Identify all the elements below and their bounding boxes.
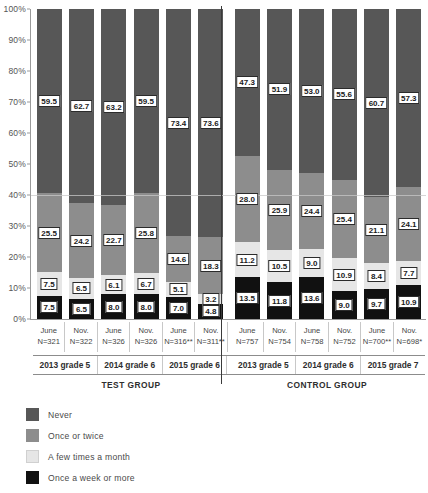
bar-segment-a-few-times-a-month[interactable]: 7.5 — [37, 272, 62, 295]
stacked-bar[interactable]: 60.721.18.49.7 — [364, 9, 389, 319]
bar-segment-once-or-twice[interactable]: 24.1 — [396, 187, 421, 262]
bar-segment-never[interactable]: 47.3 — [235, 9, 260, 156]
legend-item[interactable]: Never — [26, 404, 326, 425]
bar-segment-once-a-week-or-more[interactable]: 10.9 — [396, 285, 421, 319]
y-tick-label-80: 80% — [8, 66, 26, 76]
bar-segment-never[interactable]: 57.3 — [396, 9, 421, 187]
bar-column: 73.414.65.17.0 — [162, 9, 194, 319]
bar-segment-once-or-twice[interactable]: 18.3 — [198, 237, 223, 294]
bar-segment-once-a-week-or-more[interactable]: 7.0 — [166, 297, 191, 319]
legend-swatch-icon — [26, 408, 39, 421]
x-label-sample-size: N=752 — [329, 336, 360, 347]
stacked-bar[interactable]: 73.414.65.17.0 — [166, 9, 191, 319]
bar-segment-once-a-week-or-more[interactable]: 6.5 — [69, 299, 94, 319]
bar-segment-once-a-week-or-more[interactable]: 9.0 — [332, 291, 357, 319]
bar-segment-never[interactable]: 51.9 — [267, 9, 292, 170]
bar-segment-never[interactable]: 59.5 — [134, 9, 159, 193]
bar-segment-never[interactable]: 73.4 — [166, 9, 191, 236]
bar-segment-once-a-week-or-more[interactable]: 8.0 — [134, 294, 159, 319]
bar-segment-once-a-week-or-more[interactable]: 7.5 — [37, 296, 62, 319]
bar-segment-once-or-twice[interactable]: 24.2 — [69, 203, 94, 278]
legend-swatch-icon — [26, 471, 39, 484]
x-label-sample-size: N=326 — [98, 336, 129, 347]
x-label-month: Nov. — [130, 325, 161, 336]
bar-segment-a-few-times-a-month[interactable]: 6.5 — [69, 278, 94, 298]
x-axis-label: JuneN=321 — [33, 322, 65, 352]
bar-segment-a-few-times-a-month[interactable]: 11.2 — [235, 242, 260, 277]
bar-segment-never[interactable]: 55.6 — [332, 9, 357, 180]
stacked-bar[interactable]: 63.222.76.18.0 — [101, 9, 126, 319]
bar-segment-once-or-twice[interactable]: 22.7 — [101, 205, 126, 275]
legend-item[interactable]: Once or twice — [26, 425, 326, 446]
legend-label: A few times a month — [48, 452, 130, 462]
segment-value-label: 8.4 — [368, 270, 385, 282]
bar-segment-a-few-times-a-month[interactable]: 10.9 — [332, 258, 357, 291]
bar-segment-once-a-week-or-more[interactable]: 9.7 — [364, 289, 389, 319]
segment-value-label: 10.5 — [269, 260, 291, 272]
bar-segment-never[interactable]: 62.7 — [69, 9, 94, 203]
legend-item[interactable]: A few times a month — [26, 446, 326, 467]
segment-value-label: 21.1 — [366, 224, 388, 236]
segment-value-label: 53.0 — [301, 85, 323, 97]
bar-segment-never[interactable]: 59.5 — [37, 9, 62, 193]
stacked-bar[interactable]: 53.024.49.013.6 — [299, 9, 324, 319]
bar-segment-once-a-week-or-more[interactable]: 8.0 — [101, 294, 126, 319]
bar-segment-once-or-twice[interactable]: 25.8 — [134, 193, 159, 273]
segment-value-label: 4.8 — [202, 305, 219, 317]
y-axis-line — [30, 9, 31, 320]
segment-value-label: 7.0 — [170, 302, 187, 314]
stacked-bar[interactable]: 55.625.410.99.0 — [332, 9, 357, 319]
segment-value-label: 13.5 — [236, 292, 258, 304]
bar-segment-once-or-twice[interactable]: 21.1 — [364, 197, 389, 262]
stacked-bar[interactable]: 59.525.86.78.0 — [134, 9, 159, 319]
stacked-bar[interactable]: 73.618.33.24.8 — [198, 9, 223, 319]
bar-column: 59.525.86.78.0 — [130, 9, 162, 319]
bar-segment-a-few-times-a-month[interactable]: 7.7 — [396, 261, 421, 285]
stacked-bar[interactable]: 59.525.57.57.5 — [37, 9, 62, 319]
bar-segment-once-or-twice[interactable]: 25.5 — [37, 193, 62, 272]
group-label: 2014 grade 6 — [98, 356, 163, 374]
bar-segment-a-few-times-a-month[interactable]: 10.5 — [267, 250, 292, 283]
bar-segment-once-or-twice[interactable]: 24.4 — [299, 173, 324, 249]
segment-value-label: 11.2 — [237, 254, 258, 266]
segment-value-label: 22.7 — [103, 234, 125, 246]
x-axis-label: Nov.N=326 — [130, 322, 162, 352]
bar-segment-a-few-times-a-month[interactable]: 9.0 — [299, 249, 324, 277]
x-label-month: June — [33, 325, 64, 336]
y-tick-label-70: 70% — [8, 97, 26, 107]
stacked-bar[interactable]: 62.724.26.56.5 — [69, 9, 94, 319]
bar-segment-a-few-times-a-month[interactable]: 6.7 — [134, 273, 159, 294]
x-label-sample-size: N=698* — [394, 336, 425, 347]
bar-segment-once-a-week-or-more[interactable]: 4.8 — [198, 304, 223, 319]
bar-segment-a-few-times-a-month[interactable]: 6.1 — [101, 275, 126, 294]
bar-segment-never[interactable]: 60.7 — [364, 9, 389, 197]
bar-segment-never[interactable]: 73.6 — [198, 9, 223, 237]
segment-value-label: 5.1 — [170, 283, 187, 295]
bar-segment-once-or-twice[interactable]: 25.4 — [332, 180, 357, 258]
segment-value-label: 6.1 — [105, 279, 122, 291]
bar-segment-a-few-times-a-month[interactable]: 3.2 — [198, 294, 223, 304]
bar-segment-once-or-twice[interactable]: 28.0 — [235, 156, 260, 243]
segment-value-label: 9.7 — [368, 298, 385, 310]
supergroup-label-row: TEST GROUPCONTROL GROUP — [33, 376, 425, 394]
legend-item[interactable]: Once a week or more — [26, 467, 326, 488]
bar-segment-once-or-twice[interactable]: 14.6 — [166, 236, 191, 281]
bar-column: 63.222.76.18.0 — [98, 9, 130, 319]
bar-segment-once-a-week-or-more[interactable]: 13.6 — [299, 277, 324, 319]
bar-segment-never[interactable]: 63.2 — [101, 9, 126, 205]
x-label-sample-size: N=757 — [232, 336, 263, 347]
group-label: 2014 grade 6 — [296, 356, 361, 374]
bar-segment-once-a-week-or-more[interactable]: 13.5 — [235, 277, 260, 319]
bar-segment-a-few-times-a-month[interactable]: 8.4 — [364, 263, 389, 289]
bar-segment-once-a-week-or-more[interactable]: 11.8 — [267, 282, 292, 319]
stacked-bar[interactable]: 57.324.17.710.9 — [396, 9, 421, 319]
y-tick-label-20: 20% — [8, 252, 26, 262]
stacked-bar[interactable]: 51.925.910.511.8 — [267, 9, 292, 319]
bar-segment-never[interactable]: 53.0 — [299, 9, 324, 173]
x-label-sample-size: N=321 — [33, 336, 64, 347]
bar-segment-once-or-twice[interactable]: 25.9 — [267, 170, 292, 250]
x-axis-label: JuneN=326 — [98, 322, 130, 352]
bar-segment-a-few-times-a-month[interactable]: 5.1 — [166, 282, 191, 298]
stacked-bar[interactable]: 47.328.011.213.5 — [235, 9, 260, 319]
group-label-row: 2013 grade 52014 grade 62015 grade 62013… — [33, 355, 425, 375]
